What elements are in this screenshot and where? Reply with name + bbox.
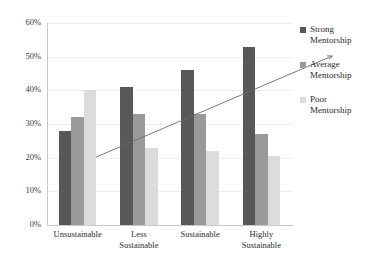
x-axis-label: LessSustainable (108, 229, 169, 250)
bar-poor[interactable] (84, 90, 97, 225)
bar-group (59, 23, 97, 225)
legend-item[interactable]: Strong Mentorship (300, 24, 370, 46)
legend-label-poor: Poor Mentorship (310, 94, 352, 116)
bar-group (243, 23, 281, 225)
y-axis-tick-label: 10% (0, 186, 41, 195)
bar-average[interactable] (255, 134, 268, 225)
bar-strong[interactable] (59, 131, 72, 225)
bar-strong[interactable] (181, 70, 194, 225)
bar-chart: 0%10%20%30%40%50%60% UnsustainableLessSu… (0, 0, 370, 274)
x-axis-label: HighlySustainable (231, 229, 292, 250)
legend: Strong Mentorship Average Mentorship Poo… (300, 24, 370, 129)
x-axis-label: Sustainable (170, 229, 231, 240)
legend-swatch-strong (300, 27, 306, 33)
bar-strong[interactable] (243, 47, 256, 225)
legend-swatch-poor (300, 97, 306, 103)
bar-poor[interactable] (206, 151, 219, 225)
bar-average[interactable] (133, 114, 146, 225)
legend-label-average: Average Mentorship (310, 59, 352, 81)
x-axis-line (47, 225, 293, 226)
bar-group (181, 23, 219, 225)
y-axis-tick-label: 30% (0, 119, 41, 128)
legend-swatch-average (300, 62, 306, 68)
legend-label-strong: Strong Mentorship (310, 24, 352, 46)
y-axis-tick-label: 20% (0, 153, 41, 162)
y-axis-tick-label: 40% (0, 85, 41, 94)
plot-area (47, 23, 292, 225)
y-axis-tick-label: 0% (0, 220, 41, 229)
y-axis-tick-label: 50% (0, 52, 41, 61)
x-axis-label: Unsustainable (47, 229, 108, 240)
y-axis-tick-label: 60% (0, 18, 41, 27)
legend-item[interactable]: Poor Mentorship (300, 94, 370, 116)
bar-average[interactable] (71, 117, 84, 225)
y-axis-line (47, 23, 48, 226)
bar-poor[interactable] (145, 148, 158, 225)
bar-poor[interactable] (268, 156, 281, 225)
bar-strong[interactable] (120, 87, 133, 225)
bar-average[interactable] (194, 114, 207, 225)
bar-group (120, 23, 158, 225)
legend-item[interactable]: Average Mentorship (300, 59, 370, 81)
